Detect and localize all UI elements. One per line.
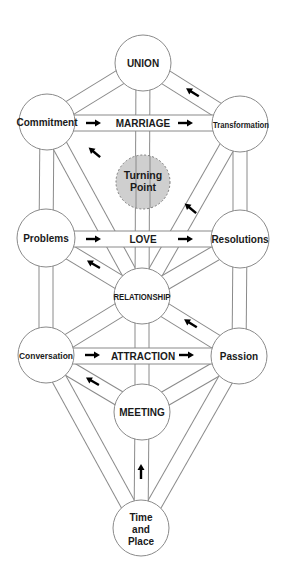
label-marriage: MARRIAGE xyxy=(116,118,171,129)
label-turning: Turning xyxy=(124,169,162,181)
label-attraction: ATTRACTION xyxy=(111,351,175,362)
tree-of-life-diagram: UNION Commitment Transformation Turning … xyxy=(0,0,286,586)
label-resolutions: Resolutions xyxy=(211,234,269,245)
label-place: Place xyxy=(128,536,155,547)
diagram-canvas: UNION Commitment Transformation Turning … xyxy=(0,0,286,586)
label-commitment: Commitment xyxy=(16,117,78,128)
label-passion: Passion xyxy=(220,351,258,362)
label-and: and xyxy=(132,524,150,535)
label-relationship: RELATIONSHIP xyxy=(114,291,172,302)
label-union: UNION xyxy=(127,58,159,69)
label-transformation: Transformation xyxy=(213,119,269,130)
label-conversation: Conversation xyxy=(19,350,73,361)
label-love: LOVE xyxy=(129,234,157,245)
arrow-up-left-icon xyxy=(86,145,102,160)
label-time: Time xyxy=(129,512,153,523)
label-meeting: MEETING xyxy=(119,407,165,418)
label-problems: Problems xyxy=(23,233,69,244)
label-point: Point xyxy=(130,181,157,193)
